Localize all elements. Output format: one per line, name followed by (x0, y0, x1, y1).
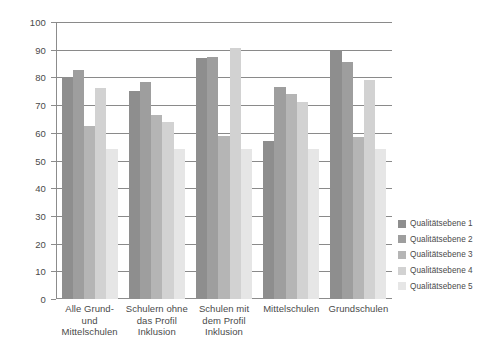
y-tick-label: 10 (35, 266, 46, 277)
legend-item[interactable]: Qualitätsebene 2 (398, 232, 492, 248)
legend-item[interactable]: Qualitätsebene 5 (398, 278, 492, 294)
bars-layer (56, 22, 392, 299)
x-tick-label: Grundschulen (319, 303, 398, 315)
y-tick-label: 100 (30, 17, 46, 28)
bar (95, 88, 106, 299)
bar (84, 126, 95, 299)
legend-item-label: Qualitätsebene 1 (410, 219, 473, 228)
y-axis-labels: 0102030405060708090100 (0, 22, 46, 299)
bar-group (325, 22, 392, 299)
legend-swatch-icon (398, 220, 406, 228)
bar-chart: 0102030405060708090100 Alle Grund-undMit… (0, 0, 492, 355)
bar (308, 149, 319, 299)
bar (106, 149, 117, 299)
bar (286, 94, 297, 299)
x-tick-label-line: Inklusion (184, 326, 263, 338)
x-tick-label-line: Grundschulen (319, 303, 398, 315)
bar (207, 57, 218, 299)
bar (162, 122, 173, 299)
bar (330, 50, 341, 299)
y-tick-label: 40 (35, 183, 46, 194)
legend-swatch-icon (398, 267, 406, 275)
y-tick-label: 20 (35, 238, 46, 249)
bar (342, 62, 353, 299)
bar (151, 115, 162, 299)
x-axis-labels: Alle Grund-undMittelschulenSchulern ohne… (56, 303, 392, 353)
bar (174, 149, 185, 299)
y-tick-label: 70 (35, 100, 46, 111)
bar (241, 149, 252, 299)
bar-group (190, 22, 257, 299)
bar (129, 91, 140, 299)
bar (297, 102, 308, 299)
y-tick-label: 80 (35, 72, 46, 83)
legend-swatch-icon (398, 282, 406, 290)
bar (353, 137, 364, 299)
bar (62, 77, 73, 299)
y-tick-label: 30 (35, 210, 46, 221)
y-tick-label: 50 (35, 155, 46, 166)
legend-item[interactable]: Qualitätsebene 3 (398, 247, 492, 263)
plot-area (56, 22, 392, 299)
bar-group (56, 22, 123, 299)
legend-item[interactable]: Qualitätsebene 4 (398, 263, 492, 279)
y-tick-label: 60 (35, 127, 46, 138)
bar (274, 87, 285, 299)
chart-legend: Qualitätsebene 1Qualitätsebene 2Qualität… (398, 216, 492, 294)
legend-item-label: Qualitätsebene 5 (410, 282, 473, 291)
bar (196, 58, 207, 299)
x-tick-label-line: dem Profil (184, 315, 263, 327)
bar (375, 149, 386, 299)
y-tick-label: 90 (35, 44, 46, 55)
y-tick-label: 0 (41, 294, 46, 305)
legend-swatch-icon (398, 251, 406, 259)
legend-item[interactable]: Qualitätsebene 1 (398, 216, 492, 232)
legend-item-label: Qualitätsebene 3 (410, 250, 473, 259)
legend-swatch-icon (398, 235, 406, 243)
bar (218, 136, 229, 299)
bar (140, 82, 151, 299)
bar-group (258, 22, 325, 299)
bar (230, 48, 241, 299)
bar-group (123, 22, 190, 299)
bar (263, 141, 274, 299)
bar (364, 80, 375, 299)
legend-item-label: Qualitätsebene 2 (410, 235, 473, 244)
legend-item-label: Qualitätsebene 4 (410, 266, 473, 275)
bar (73, 70, 84, 299)
y-tick-mark (51, 299, 56, 300)
